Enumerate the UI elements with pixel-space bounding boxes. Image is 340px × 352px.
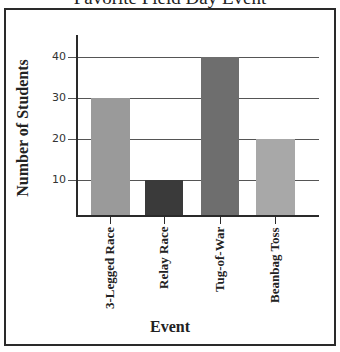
- x-label-relay-race: Relay Race: [156, 227, 174, 289]
- x-label-tug-of-war: Tug-of-War: [212, 227, 230, 292]
- y-axis-line: [76, 35, 78, 217]
- x-axis-line: [76, 215, 319, 217]
- y-axis-label: Number of Students: [14, 28, 34, 228]
- bar-tug-of-war: [201, 57, 239, 216]
- bar-relay-race: [145, 180, 183, 216]
- y-tick-10: 10: [42, 173, 66, 186]
- y-tick-20: 20: [42, 132, 66, 145]
- y-tick-30: 30: [42, 91, 66, 104]
- x-label-3-legged-race: 3-Legged Race: [102, 227, 120, 309]
- y-tick-40: 40: [42, 50, 66, 63]
- x-axis-label: Event: [0, 318, 340, 336]
- x-tick-beanbag-toss: [275, 217, 276, 224]
- x-tick-tug-of-war: [220, 217, 221, 224]
- gridline-40: [68, 57, 319, 58]
- x-tick-3-legged-race: [110, 217, 111, 224]
- bar-3-legged-race: [91, 98, 130, 216]
- bar-beanbag-toss: [256, 139, 295, 216]
- x-tick-relay-race: [164, 217, 165, 224]
- x-label-beanbag-toss: Beanbag Toss: [267, 227, 285, 303]
